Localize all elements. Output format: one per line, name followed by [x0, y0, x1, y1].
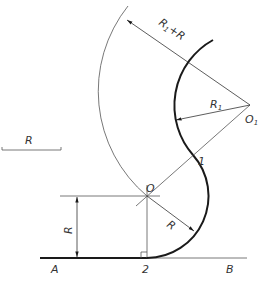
- label-r-legend: R: [25, 134, 33, 147]
- label-r1-plus-r: R1+R: [156, 16, 188, 44]
- r-legend-bar: [2, 147, 61, 150]
- label-point-1: 1: [198, 155, 205, 168]
- tangent-arc-r1: [174, 40, 213, 155]
- label-point-2: 2: [142, 263, 149, 276]
- label-r-arc: R: [164, 218, 178, 233]
- tangent-arc-diagram: R1+R R1 O1 1 O R R R A 2 B: [0, 0, 260, 281]
- construction-arc-r1-plus-r: [98, 6, 147, 196]
- label-r-vertical: R: [62, 226, 75, 234]
- label-b: B: [226, 263, 234, 276]
- tangent-arc-r: [147, 155, 208, 258]
- label-r1: R1: [210, 98, 222, 112]
- label-o1: O1: [245, 113, 258, 127]
- label-a: A: [50, 263, 59, 276]
- label-o: O: [146, 182, 155, 195]
